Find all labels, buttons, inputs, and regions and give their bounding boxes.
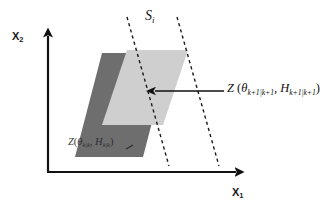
figure-canvas: X2 X1 Si Z (θk+1|k+1, Hk+1|k+1) Z(θk|k, …: [0, 0, 336, 209]
updated-label-Z: Z: [227, 81, 234, 95]
updated-label-H-sub: k+1|k+1: [289, 88, 316, 97]
prior-label-H: H: [95, 136, 103, 147]
strip-label: Si: [145, 8, 155, 24]
prior-set-label: Z(θk|k, Hk|k): [68, 136, 113, 147]
updated-label-theta-sub: k+1|k+1: [247, 88, 274, 97]
updated-label-close-paren: ): [316, 81, 320, 95]
updated-set-label: Z (θk+1|k+1, Hk+1|k+1): [227, 81, 320, 96]
prior-label-theta-sub: k|k: [83, 141, 90, 148]
prior-label-H-sub: k|k: [103, 141, 110, 148]
figure-svg: [0, 0, 336, 209]
updated-label-H: H: [280, 81, 289, 95]
prior-label-close-paren: ): [110, 136, 114, 147]
y-axis-label: X2: [12, 30, 24, 42]
x-axis-label: X1: [232, 186, 244, 198]
prior-label-theta: θ: [77, 136, 82, 147]
